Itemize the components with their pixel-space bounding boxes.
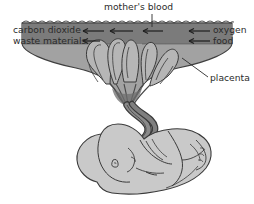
label-food: food [213,36,233,47]
label-carbon-dioxide: carbon dioxide [13,25,81,36]
label-waste-materials: waste materials [13,36,86,47]
label-mothers-blood: mother's blood [104,2,173,13]
label-oxygen: oxygen [213,25,247,36]
label-placenta: placenta [210,73,250,84]
diagram-canvas: mother's blood carbon dioxide waste mate… [0,0,254,204]
